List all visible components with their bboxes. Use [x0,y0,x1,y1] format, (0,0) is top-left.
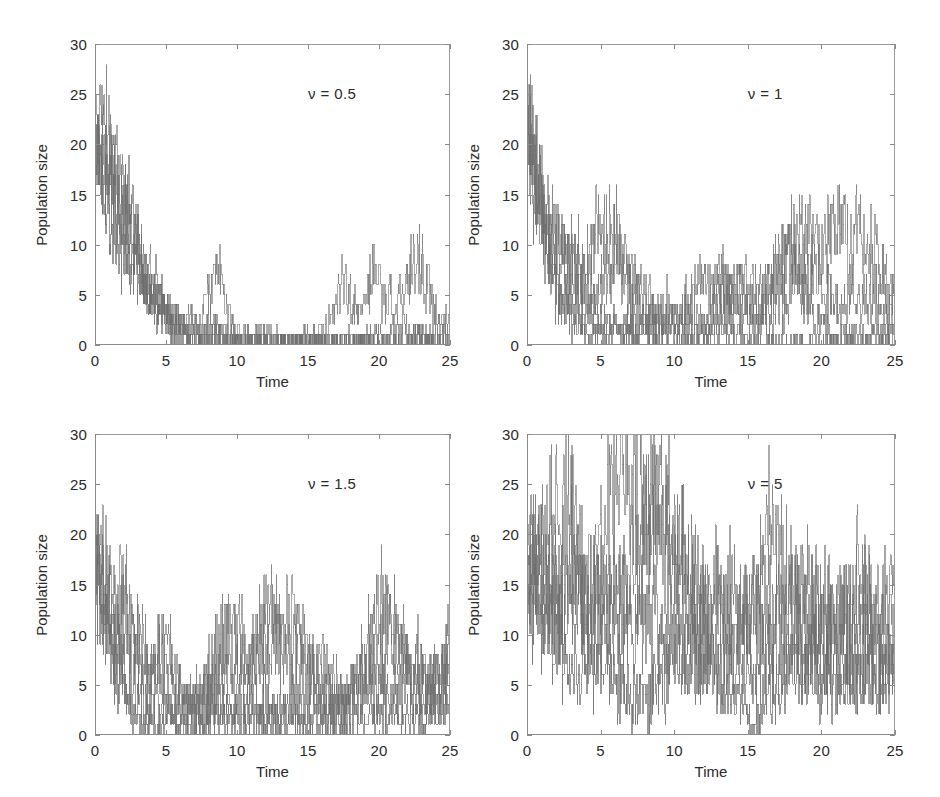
y-tick-mark [890,585,895,586]
y-tick-label: 25 [483,476,519,493]
y-tick-mark [890,484,895,485]
x-tick-mark [674,730,675,735]
y-tick-mark [527,735,532,736]
x-tick-mark [748,434,749,439]
nu-annotation: ν = 5 [748,475,783,492]
x-tick-label: 15 [739,742,756,759]
x-tick-label: 25 [886,742,903,759]
x-tick-label: 5 [596,742,605,759]
x-tick-mark [601,730,602,735]
y-axis-label: Population size [465,534,482,636]
y-tick-mark [527,585,532,586]
x-tick-mark [674,434,675,439]
chart-panel-3: ν = 50510152025051015202530TimePopulatio… [0,0,940,797]
y-tick-label: 10 [483,626,519,643]
y-tick-mark [890,735,895,736]
x-tick-mark [895,434,896,439]
y-tick-mark [527,434,532,435]
y-tick-mark [890,635,895,636]
x-tick-mark [748,730,749,735]
y-tick-mark [527,635,532,636]
plot-area [527,434,895,735]
y-tick-label: 20 [483,526,519,543]
y-tick-label: 5 [483,676,519,693]
x-tick-label: 0 [523,742,532,759]
figure-canvas: ν = 0.50510152025051015202530TimePopulat… [0,0,940,797]
x-tick-mark [821,434,822,439]
y-tick-mark [890,534,895,535]
x-tick-mark [821,730,822,735]
x-tick-mark [601,434,602,439]
x-axis-label: Time [695,763,728,780]
y-tick-label: 30 [483,426,519,443]
y-tick-label: 0 [483,727,519,744]
x-tick-label: 10 [666,742,683,759]
y-tick-mark [890,434,895,435]
x-tick-mark [895,730,896,735]
x-tick-label: 20 [813,742,830,759]
y-tick-mark [527,484,532,485]
y-tick-mark [890,685,895,686]
y-tick-mark [527,534,532,535]
y-tick-mark [527,685,532,686]
y-tick-label: 15 [483,576,519,593]
